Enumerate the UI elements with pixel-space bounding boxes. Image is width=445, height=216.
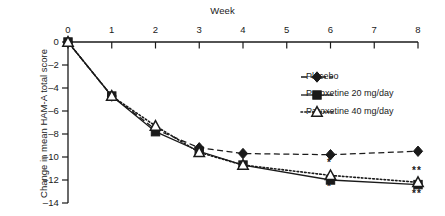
x-axis-ticks bbox=[68, 42, 418, 49]
significance-marker: * bbox=[326, 183, 333, 191]
significance-marker: ** bbox=[410, 167, 424, 175]
x-tick-label: 1 bbox=[100, 24, 124, 35]
legend-item-2[interactable]: Paroxetine 40 mg/day bbox=[300, 105, 394, 116]
y-tick-label: –12 bbox=[36, 174, 59, 185]
y-tick-label: –8 bbox=[36, 128, 59, 139]
x-tick-label: 2 bbox=[144, 24, 168, 35]
x-tick-label: 0 bbox=[56, 24, 80, 35]
data-point-2-2 bbox=[150, 121, 160, 131]
data-point-0-4 bbox=[238, 148, 247, 158]
y-axis-ticks bbox=[62, 42, 68, 203]
data-point-0-6 bbox=[413, 146, 422, 156]
x-tick-label: 6 bbox=[319, 24, 343, 35]
y-tick-label: –6 bbox=[36, 105, 59, 116]
y-tick-label: –14 bbox=[36, 197, 59, 208]
chart-figure: Week Change in mean HAM-A total score 01… bbox=[0, 0, 445, 216]
x-tick-label: 8 bbox=[406, 24, 430, 35]
legend-item-0[interactable]: Placebo bbox=[300, 70, 339, 81]
series-line-0 bbox=[68, 42, 418, 155]
significance-marker: ** bbox=[410, 190, 424, 198]
legend-swatch-1 bbox=[300, 88, 334, 102]
significance-marker: * bbox=[326, 159, 333, 167]
legend-marker-0 bbox=[312, 72, 321, 82]
y-tick-label: –10 bbox=[36, 151, 59, 162]
x-tick-label: 5 bbox=[275, 24, 299, 35]
y-tick-label: –2 bbox=[36, 59, 59, 70]
legend-marker-1 bbox=[313, 90, 321, 98]
axes-group bbox=[62, 42, 418, 203]
x-tick-label: 3 bbox=[187, 24, 211, 35]
x-tick-label: 4 bbox=[231, 24, 255, 35]
legend-item-1[interactable]: Paroxetine 20 mg/day bbox=[300, 88, 394, 99]
x-tick-label: 7 bbox=[362, 24, 386, 35]
y-tick-label: 0 bbox=[36, 36, 59, 47]
legend-swatch-0 bbox=[300, 70, 334, 84]
y-tick-label: –4 bbox=[36, 82, 59, 93]
legend-swatch-2 bbox=[300, 105, 334, 119]
